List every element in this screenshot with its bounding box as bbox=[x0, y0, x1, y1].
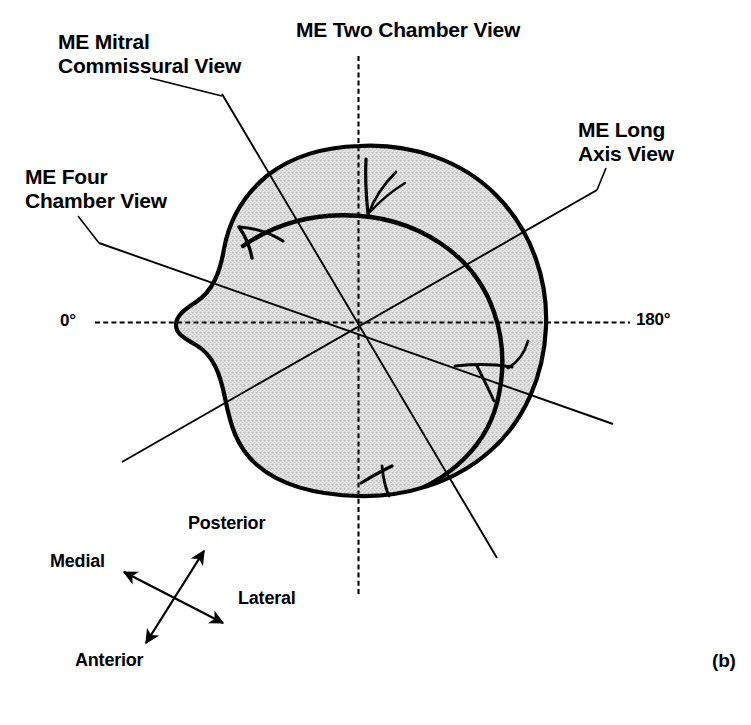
leader-line-mitral-commissural bbox=[150, 78, 222, 96]
label-angle-one-eighty-degrees: 180° bbox=[636, 310, 670, 329]
leader-line-four-chamber bbox=[78, 216, 99, 243]
label-me-two-chamber-view: ME Two Chamber View bbox=[296, 18, 520, 42]
orientation-compass bbox=[124, 551, 223, 643]
label-me-mitral-commissural-line2: Commissural View bbox=[58, 54, 241, 77]
label-angle-zero-degrees: 0° bbox=[60, 311, 76, 330]
label-orientation-lateral: Lateral bbox=[238, 588, 296, 608]
label-me-four-chamber-line1: ME Four bbox=[25, 165, 108, 188]
label-me-long-axis-line1: ME Long bbox=[578, 118, 665, 141]
compass-arrow-posterior-anterior bbox=[146, 551, 204, 643]
label-me-four-chamber-line2: Chamber View bbox=[25, 189, 167, 212]
valve-diagram-canvas bbox=[0, 0, 751, 725]
leader-line-long-axis bbox=[597, 168, 606, 190]
label-me-long-axis-view: ME LongAxis View bbox=[578, 118, 674, 165]
label-orientation-anterior: Anterior bbox=[75, 650, 143, 670]
mitral-valve-outline bbox=[176, 146, 546, 496]
label-me-long-axis-line2: Axis View bbox=[578, 142, 674, 165]
label-me-mitral-commissural-line1: ME Mitral bbox=[58, 30, 150, 53]
label-me-four-chamber-view: ME FourChamber View bbox=[25, 165, 167, 212]
label-orientation-medial: Medial bbox=[50, 551, 105, 571]
label-orientation-posterior: Posterior bbox=[188, 513, 265, 533]
label-panel-b: (b) bbox=[712, 650, 736, 671]
figure-panel-b: ME Two Chamber View ME MitralCommissural… bbox=[0, 0, 751, 725]
label-me-mitral-commissural-view: ME MitralCommissural View bbox=[58, 30, 241, 77]
